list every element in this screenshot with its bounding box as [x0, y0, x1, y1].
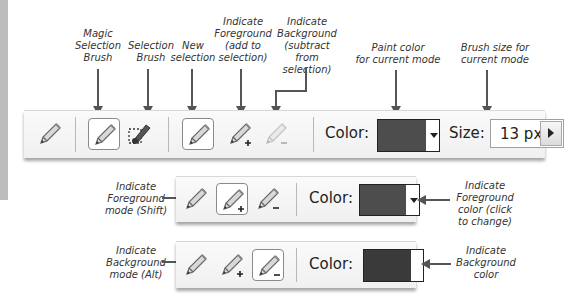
toolbar-divider [296, 248, 297, 282]
pencil-minus-icon [255, 252, 283, 280]
pencil-icon [91, 121, 119, 149]
chevron-right-icon [548, 128, 554, 138]
indicate-foreground-button[interactable] [216, 183, 248, 215]
callout-text: Background [96, 257, 176, 269]
callout-text: to change) [450, 216, 520, 228]
color-picker[interactable] [359, 184, 420, 216]
callout-fg-color: Indicate Foreground color (click to chan… [450, 180, 520, 228]
color-label: Color: [309, 255, 353, 273]
selection-brush-icon [126, 120, 154, 148]
color-label: Color: [325, 124, 369, 142]
callout-text: Foreground [450, 192, 520, 204]
foreground-mode-toolbar: Color: [176, 176, 416, 222]
callout-text: selection) [272, 64, 342, 76]
color-swatch [364, 250, 411, 281]
callout-indicate-background: Indicate Background (subtract from selec… [272, 16, 342, 76]
callout-text: mode (Shift) [96, 205, 176, 217]
callout-text: Selection [68, 40, 128, 52]
color-label: Color: [309, 189, 353, 207]
callout-text: color [451, 269, 521, 281]
callout-text: selection) [210, 52, 276, 64]
background-mode-toolbar: Color: [176, 241, 416, 288]
magic-selection-brush-button[interactable] [88, 118, 120, 150]
pencil-minus-icon [254, 185, 282, 213]
selection-brush-options-toolbar: Color: Size: 13 px [24, 110, 545, 158]
callout-text: Indicate [450, 180, 520, 192]
new-selection-button[interactable] [180, 249, 212, 281]
size-label: Size: [449, 124, 485, 142]
indicate-background-button[interactable] [252, 183, 284, 215]
arrow-line [425, 199, 450, 201]
chevron-down-icon[interactable] [430, 133, 438, 138]
color-swatch [360, 185, 406, 215]
callout-text: Magic [68, 28, 128, 40]
callout-text: color (click [450, 204, 520, 216]
new-selection-button[interactable] [182, 118, 214, 150]
color-picker[interactable] [363, 249, 424, 282]
pencil-icon [36, 120, 64, 148]
color-swatch [378, 120, 426, 151]
callout-text: Indicate [96, 245, 176, 257]
pencil-icon [182, 185, 210, 213]
selection-brush-button[interactable] [124, 118, 156, 150]
arrow-line [191, 69, 193, 109]
pencil-icon [185, 121, 213, 149]
toolbar-divider [296, 183, 297, 216]
pencil-plus-icon [219, 186, 247, 214]
pencil-icon [182, 251, 210, 279]
callout-text: Indicate [272, 16, 342, 28]
callout-text: Paint color [355, 42, 441, 54]
arrow-line [97, 69, 99, 109]
brush-size-value: 13 px [500, 125, 542, 143]
callout-text: Foreground [210, 28, 276, 40]
callout-bg-color: Indicate Background color [451, 245, 521, 281]
indicate-background-button[interactable] [260, 118, 292, 150]
new-selection-button[interactable] [180, 183, 212, 215]
indicate-background-button[interactable] [252, 249, 284, 281]
arrow-line [305, 68, 307, 92]
callout-bg-mode: Indicate Background mode (Alt) [96, 245, 176, 281]
arrow-line [395, 70, 397, 109]
callout-text: Brush size for [455, 42, 535, 54]
toolbar-divider [75, 117, 76, 152]
pencil-plus-icon [226, 120, 254, 148]
callout-text: Indicate [451, 245, 521, 257]
callout-text: Foreground [96, 193, 176, 205]
pencil-minus-icon [262, 120, 290, 148]
callout-text: (add to [210, 40, 276, 52]
callout-text: Background [451, 257, 521, 269]
callout-brush-size: Brush size for current mode [455, 42, 535, 66]
arrow-line [275, 90, 307, 92]
brush-size-slider-button[interactable] [540, 121, 562, 146]
callout-text: Background [272, 28, 342, 40]
arrow-line [486, 70, 488, 109]
callout-magic-selection-brush: Magic Selection Brush [68, 28, 128, 64]
arrow-line [147, 69, 149, 109]
toolbar-divider [313, 117, 314, 152]
callout-fg-mode: Indicate Foreground mode (Shift) [96, 181, 176, 217]
callout-paint-color: Paint color for current mode [355, 42, 441, 66]
callout-text: Indicate [96, 181, 176, 193]
pencil-plus-icon [218, 251, 246, 279]
arrow-line [429, 263, 451, 265]
indicate-foreground-button[interactable] [224, 118, 256, 150]
page-edge-strip [0, 0, 8, 200]
arrow-line [240, 69, 242, 109]
callout-indicate-foreground: Indicate Foreground (add to selection) [210, 16, 276, 64]
callout-text: for current mode [355, 54, 441, 66]
callout-text: Indicate [210, 16, 276, 28]
callout-text: (subtract from [272, 40, 342, 64]
callout-text: Brush [68, 52, 128, 64]
pencil-tool-button[interactable] [34, 118, 66, 150]
color-picker[interactable] [377, 119, 440, 152]
toolbar-divider [168, 117, 169, 152]
callout-text: mode (Alt) [96, 269, 176, 281]
indicate-foreground-button[interactable] [216, 249, 248, 281]
callout-text: current mode [455, 54, 535, 66]
